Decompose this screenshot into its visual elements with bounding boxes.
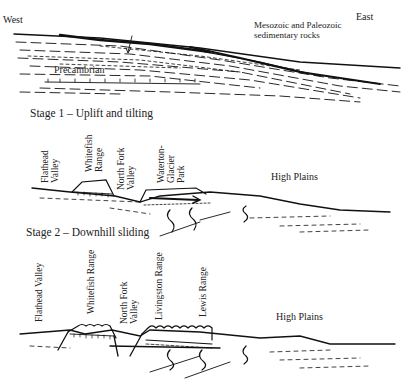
waterton-glacier-park-label: Waterton- Glacier Park xyxy=(156,145,186,183)
whitefish-range-label-stage2: Whitefish Range xyxy=(86,250,96,314)
waterton-line3: Park xyxy=(176,145,186,183)
waterton-line2: Glacier xyxy=(166,145,176,183)
high-plains-label-stage1: High Plains xyxy=(271,172,318,182)
stage1-title: Stage 1 – Uplift and tilting xyxy=(30,107,153,119)
whitefish-line2: Range xyxy=(94,135,104,172)
lewis-text: Lewis Range xyxy=(198,267,208,317)
north-fork-valley-label-stage1: North Fork Valley xyxy=(116,148,136,191)
northfork-line2: Valley xyxy=(126,148,136,191)
high-plains-label-stage2: High Plains xyxy=(276,312,323,322)
flathead-line2: Valley xyxy=(50,150,60,183)
stage2-title: Stage 2 – Downhill sliding xyxy=(26,226,149,238)
sedimentary-rocks-label-line2: sedimentary rocks xyxy=(254,30,341,40)
lewis-range-label: Lewis Range xyxy=(198,267,208,317)
flathead-valley-label-stage2: Flathead Valley xyxy=(34,263,44,322)
sedimentary-rocks-label: Mesozoic and Paleozoic sedimentary rocks xyxy=(254,20,341,40)
whitefish-line1: Whitefish xyxy=(84,135,94,172)
flathead-stage2-text: Flathead Valley xyxy=(34,263,44,322)
stage2-section xyxy=(20,325,395,379)
whitefish-stage2-text: Whitefish Range xyxy=(86,250,96,314)
east-label: East xyxy=(356,12,373,22)
north-fork-valley-label-stage2: North Fork Valley xyxy=(119,282,139,325)
northfork-stage2-line1: North Fork xyxy=(119,282,129,325)
west-label: West xyxy=(3,15,23,25)
livingston-range-label: Livingston Range xyxy=(154,252,164,320)
waterton-line1: Waterton- xyxy=(156,145,166,183)
sedimentary-rocks-label-line1: Mesozoic and Paleozoic xyxy=(254,20,341,30)
flathead-valley-label-stage1: Flathead Valley xyxy=(40,150,60,183)
livingston-text: Livingston Range xyxy=(154,252,164,320)
precambrian-label: Precambrian xyxy=(54,65,105,75)
geologic-cross-section-drawings xyxy=(0,0,412,388)
flathead-line1: Flathead xyxy=(40,150,50,183)
northfork-line1: North Fork xyxy=(116,148,126,191)
whitefish-range-label-stage1: Whitefish Range xyxy=(84,135,104,172)
northfork-stage2-line2: Valley xyxy=(129,282,139,325)
